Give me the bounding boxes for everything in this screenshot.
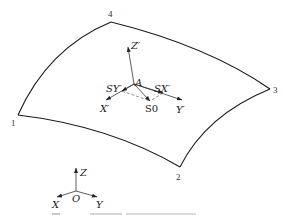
origin-a-label: A	[134, 77, 142, 88]
corner-label-1: 1	[11, 118, 16, 128]
x-prime-label: X′	[99, 103, 110, 114]
sy-prime-vector	[122, 84, 134, 91]
origin-o-label: O	[72, 193, 80, 204]
z-prime-label: Z′	[130, 40, 141, 51]
z-label: Z	[79, 167, 88, 178]
sx-prime-label: SX′	[154, 83, 171, 94]
corner-label-3: 3	[273, 85, 278, 95]
projection-dash-sx	[150, 93, 163, 101]
edge-1-2	[18, 115, 180, 167]
caption-cropped	[52, 213, 196, 215]
s0-label: S0	[145, 103, 158, 114]
edge-3-2	[180, 89, 270, 167]
x-label: X	[51, 199, 60, 210]
y-label: Y	[96, 199, 104, 210]
corner-label-4: 4	[108, 9, 113, 19]
surface-diagram: 4 1 3 2 Z′ A SY′ SX′ X′ S0 Y′ Z O X Y	[0, 0, 283, 215]
corner-label-2: 2	[176, 172, 181, 182]
edge-1-4	[18, 22, 111, 115]
sy-prime-label: SY′	[106, 83, 122, 94]
z-prime-axis	[128, 47, 134, 84]
y-prime-label: Y′	[176, 104, 186, 115]
